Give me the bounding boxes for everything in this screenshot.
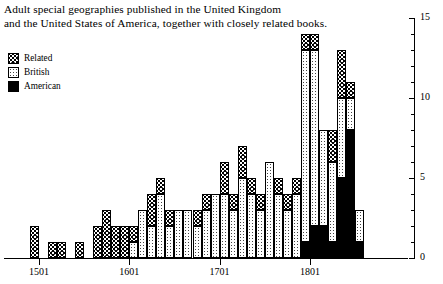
bar-segment-related [229, 194, 238, 210]
bar-segment-related [256, 194, 265, 210]
y-tick [409, 258, 415, 259]
bar [265, 162, 274, 258]
bar-segment-british [256, 210, 265, 258]
bar [111, 226, 120, 258]
bar-segment-british [310, 50, 319, 226]
bar-segment-british [346, 98, 355, 130]
bar-segment-british [220, 194, 229, 258]
bar-segment-related [30, 226, 39, 258]
bar-segment-british [129, 242, 138, 258]
bar [102, 210, 111, 258]
bar-segment-british [183, 210, 192, 258]
plot-area: 0510151501160117011801 [0, 0, 443, 284]
bar-segment-british [283, 210, 292, 258]
bar-segment-related [147, 194, 156, 226]
bar-segment-british [355, 210, 364, 242]
bar-segment-related [48, 242, 57, 258]
bar-segment-british [229, 210, 238, 258]
bar-segment-related [337, 50, 346, 98]
y-tick-label: 15 [420, 11, 430, 22]
y-tick [411, 50, 415, 51]
bar [193, 210, 202, 258]
bar-segment-related [310, 34, 319, 50]
x-tick-label: 1701 [200, 266, 240, 277]
bar [174, 210, 183, 258]
bar-segment-related [247, 178, 256, 194]
bar-segment-british [274, 194, 283, 258]
bar-segment-related [220, 162, 229, 194]
bar-segment-related [129, 226, 138, 242]
bar-segment-related [301, 34, 310, 50]
bar-segment-related [202, 194, 211, 210]
bar-segment-british [301, 50, 310, 242]
bar-segment-british [193, 226, 202, 258]
x-tick [39, 259, 40, 265]
bar [238, 146, 247, 258]
x-tick [220, 259, 221, 265]
bar-segment-british [156, 194, 165, 258]
y-tick [409, 98, 415, 99]
bar [337, 50, 346, 258]
bar [147, 194, 156, 258]
bar [75, 242, 84, 258]
y-tick-label: 10 [420, 91, 430, 102]
bar-segment-related [165, 210, 174, 226]
bar-segment-british [238, 178, 247, 258]
y-tick [411, 194, 415, 195]
bar [292, 178, 301, 258]
bar-segment-british [211, 194, 220, 258]
bar-segment-related [93, 226, 102, 258]
bar [138, 210, 147, 258]
y-tick [411, 130, 415, 131]
bar [283, 194, 292, 258]
bar [247, 178, 256, 258]
bar [310, 34, 319, 258]
bar-segment-american [310, 226, 319, 258]
bar [48, 242, 57, 258]
bar-segment-american [346, 130, 355, 258]
bar-segment-related [120, 226, 129, 258]
bar [319, 130, 328, 258]
y-tick [411, 114, 415, 115]
y-tick [411, 66, 415, 67]
bar-segment-related [238, 146, 247, 178]
bar-segment-american [355, 242, 364, 258]
bar-segment-related [283, 194, 292, 210]
bar-segment-related [328, 130, 337, 162]
y-tick-label: 5 [420, 171, 425, 182]
y-tick-label: 0 [420, 251, 425, 262]
bar [165, 210, 174, 258]
bar [120, 226, 129, 258]
y-tick [411, 226, 415, 227]
x-tick [310, 259, 311, 265]
y-tick [411, 146, 415, 147]
bar-segment-british [319, 130, 328, 226]
bar-segment-related [193, 210, 202, 226]
bar-segment-british [247, 194, 256, 258]
bar-segment-british [138, 210, 147, 258]
bar [220, 162, 229, 258]
y-tick [409, 178, 415, 179]
bar-segment-related [111, 226, 120, 258]
bar-segment-american [301, 242, 310, 258]
x-tick-label: 1501 [19, 266, 59, 277]
bar-segment-related [274, 178, 283, 194]
bar [156, 178, 165, 258]
x-tick-label: 1601 [109, 266, 149, 277]
bar [30, 226, 39, 258]
bar [211, 194, 220, 258]
bar-segment-british [147, 226, 156, 258]
bar [183, 210, 192, 258]
bar [355, 210, 364, 258]
bar [93, 226, 102, 258]
x-axis [4, 258, 408, 259]
bar-segment-related [102, 210, 111, 258]
bar-segment-related [346, 82, 355, 98]
bar-segment-american [337, 178, 346, 258]
x-tick-label: 1801 [290, 266, 330, 277]
bar [129, 226, 138, 258]
bar [202, 194, 211, 258]
bar-segment-american [328, 242, 337, 258]
y-tick [411, 34, 415, 35]
bar [57, 242, 66, 258]
